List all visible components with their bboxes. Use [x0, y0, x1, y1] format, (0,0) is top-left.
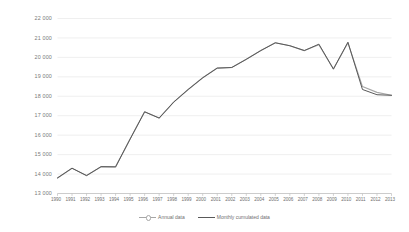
series-line: [58, 42, 392, 178]
y-axis-label: 16 000: [18, 132, 52, 138]
x-axis-label: 2006: [283, 197, 293, 202]
gridlines: [58, 19, 392, 175]
x-axis-label: 1990: [51, 197, 61, 202]
series-line: [58, 43, 392, 178]
x-axis-label: 1997: [153, 197, 163, 202]
x-axis-label: 2013: [385, 197, 395, 202]
y-axis-label: 22 000: [18, 15, 52, 21]
x-axis-label: 1991: [65, 197, 75, 202]
y-axis-label: 20 000: [18, 54, 52, 60]
x-axis-label: 2002: [225, 197, 235, 202]
x-axis-label: 1994: [109, 197, 119, 202]
legend-item[interactable]: Monthly cumulated data: [198, 214, 270, 220]
x-axis-label: 1998: [167, 197, 177, 202]
x-axis-label: 2008: [312, 197, 322, 202]
y-axis-label: 19 000: [18, 73, 52, 79]
y-axis-label: 18 000: [18, 93, 52, 99]
x-axis-label: 2003: [240, 197, 250, 202]
x-axis-label: 2012: [370, 197, 380, 202]
y-axis-label: 15 000: [18, 151, 52, 157]
x-axis-label: 2011: [356, 197, 366, 202]
chart-container: 22 00021 00020 00019 00018 00017 00016 0…: [0, 0, 409, 232]
x-axis-label: 2005: [269, 197, 279, 202]
x-axis-label: 2001: [211, 197, 221, 202]
y-axis-label: 21 000: [18, 35, 52, 41]
legend-swatch-icon: [139, 214, 156, 220]
x-axis-label: 2007: [298, 197, 308, 202]
legend-swatch-icon: [198, 214, 215, 220]
x-axis-label: 2004: [254, 197, 264, 202]
x-axis-label: 2009: [327, 197, 337, 202]
x-axis-label: 1995: [124, 197, 134, 202]
x-axis-label: 1999: [182, 197, 192, 202]
data-series-layer: [58, 42, 392, 178]
legend-label: Annual data: [158, 214, 185, 220]
legend-item[interactable]: Annual data: [139, 214, 185, 220]
y-axis-label: 17 000: [18, 112, 52, 118]
x-axis-label: 1993: [94, 197, 104, 202]
y-axis-label: 14 000: [18, 171, 52, 177]
x-axis-label: 2010: [341, 197, 351, 202]
x-axis-label: 1992: [80, 197, 90, 202]
y-axis-label: 13 000: [18, 190, 52, 196]
chart-legend: Annual dataMonthly cumulated data: [0, 214, 409, 220]
legend-label: Monthly cumulated data: [217, 214, 270, 220]
x-axis-label: 1996: [138, 197, 148, 202]
x-axis-label: 2000: [196, 197, 206, 202]
